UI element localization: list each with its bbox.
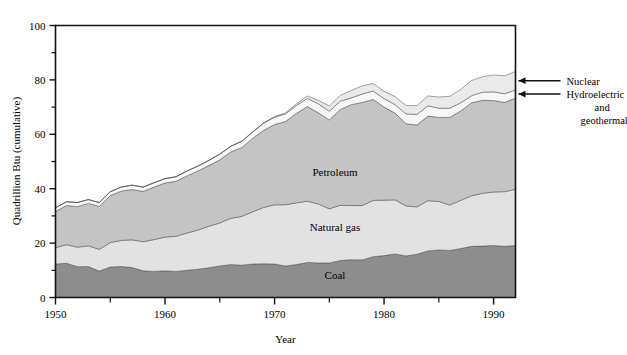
band-label-petroleum: Petroleum xyxy=(312,166,358,178)
y-tick-label: 80 xyxy=(35,74,47,86)
y-tick-label: 20 xyxy=(35,237,47,249)
annotation-line: and xyxy=(595,102,611,113)
y-tick-label: 0 xyxy=(40,292,46,304)
x-tick-label: 1950 xyxy=(45,308,68,320)
annotation-line: geothermal xyxy=(581,115,627,126)
y-tick-label: 60 xyxy=(35,128,47,140)
annotation-label-nuclear: Nuclear xyxy=(567,76,601,87)
annotation-line: Hydroelectric xyxy=(567,89,625,100)
band-label-natural-gas: Natural gas xyxy=(310,221,360,233)
y-tick-label: 100 xyxy=(29,20,46,32)
x-tick-label: 1990 xyxy=(483,308,506,320)
annotation-line: Nuclear xyxy=(567,76,601,87)
stacked-area-chart: 02040608010019501960197019801990 Petrole… xyxy=(0,0,627,355)
x-tick-label: 1980 xyxy=(373,308,396,320)
y-tick-label: 40 xyxy=(35,183,47,195)
x-axis-title: Year xyxy=(275,333,296,345)
band-label-coal: Coal xyxy=(325,269,346,281)
x-tick-label: 1970 xyxy=(264,308,287,320)
y-axis-title: Quadrillion Btu (cumulative) xyxy=(10,97,23,226)
x-tick-label: 1960 xyxy=(154,308,177,320)
chart-canvas: 02040608010019501960197019801990 Petrole… xyxy=(0,0,627,355)
